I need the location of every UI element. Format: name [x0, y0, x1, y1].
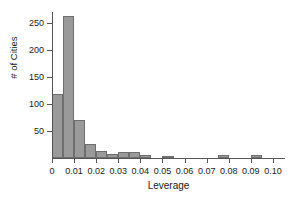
- histogram-bar: [85, 144, 96, 158]
- x-axis-title: Leverage: [52, 180, 285, 191]
- x-tick-mark: [207, 159, 208, 163]
- x-tick-mark: [140, 159, 141, 163]
- x-tick-mark: [118, 159, 119, 163]
- y-tick-mark: [47, 50, 52, 51]
- histogram-bar: [96, 151, 107, 158]
- x-tick-label: 0.01: [65, 166, 83, 176]
- x-tick-mark: [74, 159, 75, 163]
- y-tick-mark: [47, 77, 52, 78]
- y-tick-mark: [47, 23, 52, 24]
- y-tick-label: 100: [29, 99, 44, 109]
- y-tick-mark: [47, 131, 52, 132]
- histogram-figure: 00.010.020.030.040.050.060.070.080.090.1…: [0, 0, 291, 201]
- x-tick-mark: [229, 159, 230, 163]
- x-tick-label: 0.07: [198, 166, 216, 176]
- x-tick-mark: [96, 159, 97, 163]
- y-tick-label: 250: [29, 18, 44, 28]
- x-tick-label: 0.04: [132, 166, 150, 176]
- x-tick-mark: [162, 159, 163, 163]
- x-tick-mark: [273, 159, 274, 163]
- histogram-bar: [63, 16, 74, 158]
- y-tick-label: 200: [29, 45, 44, 55]
- y-tick-label: 150: [29, 72, 44, 82]
- y-axis-title: # of Cities: [8, 23, 19, 93]
- x-tick-label: 0.05: [154, 166, 172, 176]
- y-axis-line: [52, 12, 53, 158]
- x-tick-label: 0.10: [264, 166, 282, 176]
- x-tick-mark: [185, 159, 186, 163]
- histogram-bar: [52, 94, 63, 158]
- x-tick-label: 0.06: [176, 166, 194, 176]
- x-tick-label: 0.08: [220, 166, 238, 176]
- x-tick-mark: [52, 159, 53, 163]
- x-tick-label: 0.03: [110, 166, 128, 176]
- histogram-bar: [74, 120, 85, 158]
- plot-area: [52, 12, 284, 158]
- x-tick-label: 0.09: [242, 166, 260, 176]
- y-tick-mark: [47, 104, 52, 105]
- y-tick-label: 50: [34, 126, 44, 136]
- x-tick-label: 0.02: [87, 166, 105, 176]
- x-tick-label: 0: [49, 166, 54, 176]
- x-tick-mark: [251, 159, 252, 163]
